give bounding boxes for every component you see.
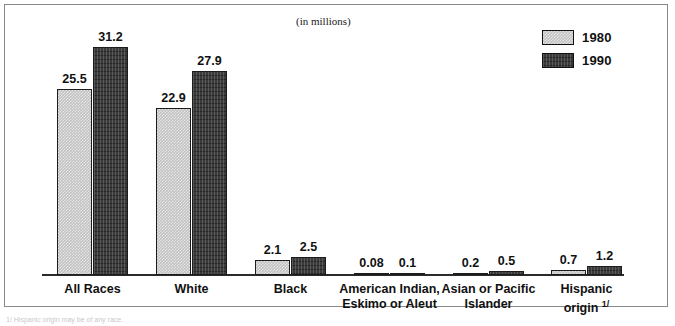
bar-1990-5 bbox=[489, 271, 524, 275]
value-label-1980-2: 22.9 bbox=[148, 91, 199, 105]
bar-1990-6 bbox=[587, 266, 622, 275]
value-label-1990-6: 1.2 bbox=[579, 249, 630, 263]
bar-1980-6 bbox=[551, 270, 586, 275]
bar-1980-3 bbox=[255, 260, 290, 275]
category-label-6: Hispanicorigin 1/ bbox=[528, 282, 646, 316]
value-label-1990-2: 27.9 bbox=[184, 54, 235, 68]
value-label-1990-4: 0.1 bbox=[382, 256, 433, 270]
bar-1980-5 bbox=[453, 273, 488, 275]
plot-area: 25.531.2All Races22.927.9White2.12.5Blac… bbox=[0, 0, 664, 303]
footnote-text: 1/ Hispanic origin may be of any race. bbox=[6, 316, 426, 325]
value-label-1980-1: 25.5 bbox=[49, 72, 100, 86]
x-axis-baseline bbox=[42, 274, 624, 276]
bar-1980-2 bbox=[156, 108, 191, 275]
bar-1980-4 bbox=[354, 273, 389, 275]
bar-1980-1 bbox=[57, 89, 92, 275]
bar-1990-3 bbox=[291, 257, 326, 275]
bar-1990-4 bbox=[390, 273, 425, 275]
bar-chart-figure: (in millions) 1980 1990 25.531.2All Race… bbox=[0, 0, 675, 326]
value-label-1990-5: 0.5 bbox=[481, 254, 532, 268]
value-label-1990-3: 2.5 bbox=[283, 240, 334, 254]
value-label-1990-1: 31.2 bbox=[85, 30, 136, 44]
